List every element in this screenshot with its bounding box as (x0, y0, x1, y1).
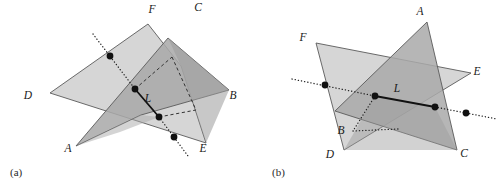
panel-a-line-label-L: L (144, 92, 151, 104)
figure-canvas: D F C B E A L (a) (0, 0, 504, 186)
panel-a-caption: (a) (10, 166, 23, 179)
panel-a-dot-2 (132, 86, 139, 93)
panel-b-dot-2 (372, 93, 379, 100)
panel-b-vertex-label-F: F (298, 31, 307, 43)
panel-a-dot-4 (171, 134, 178, 141)
panel-a-vertex-label-D: D (23, 89, 33, 101)
panel-b-vertex-label-A: A (415, 5, 424, 17)
panel-b-dot-3 (432, 104, 439, 111)
panel-b-line-label-L: L (393, 82, 400, 94)
panel-b-vertex-label-E: E (472, 65, 480, 77)
panel-b-dot-4 (463, 110, 470, 117)
panel-a-vertex-label-C: C (194, 1, 202, 13)
panel-b-dot-1 (322, 82, 329, 89)
panel-b-caption: (b) (272, 166, 285, 179)
panel-b-group: F A E B D C L (b) (272, 5, 497, 179)
panel-b-vertex-label-D: D (325, 148, 335, 160)
panel-a-vertex-label-F: F (147, 3, 156, 15)
panel-b-vertex-label-C: C (460, 147, 468, 159)
panel-a-group: D F C B E A L (a) (10, 1, 237, 179)
panel-a-vertex-label-E: E (198, 142, 206, 154)
panel-a-vertex-label-A: A (63, 142, 72, 154)
panel-a-vertex-label-B: B (229, 89, 236, 101)
panel-a-diagram: D F C B E A L (a) (0, 0, 504, 186)
panel-a-dot-1 (107, 53, 114, 60)
panel-b-vertex-label-B: B (337, 124, 344, 136)
panel-a-dot-3 (156, 114, 163, 121)
